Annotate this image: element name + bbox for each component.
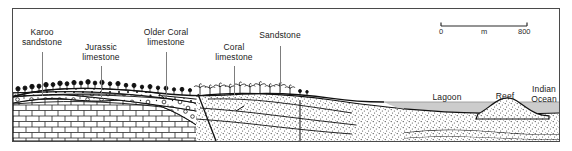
leader-older-coral-limestone: [166, 52, 167, 98]
label-reef: Reef: [486, 92, 524, 102]
geological-cross-section-figure: Karoo sandstone Jurassic limestone Older…: [0, 0, 572, 151]
leader-sandstone: [280, 46, 281, 92]
cross-section-canvas: [0, 0, 572, 151]
leader-coral-limestone: [234, 66, 235, 95]
label-indian-ocean: Indian Ocean: [523, 85, 565, 104]
scale-bar-graphic: [441, 23, 527, 27]
label-coral-limestone: Coral limestone: [192, 43, 276, 62]
scale-end-label: 800: [518, 27, 531, 36]
label-lagoon: Lagoon: [420, 93, 474, 103]
leader-jurassic-limestone: [101, 66, 102, 97]
scale-unit-label: m: [481, 27, 487, 36]
label-sandstone: Sandstone: [243, 31, 317, 41]
leader-karoo-sandstone: [42, 52, 43, 96]
scale-start-label: 0: [439, 27, 443, 36]
